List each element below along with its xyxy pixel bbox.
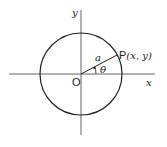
x-axis-label: x: [146, 77, 152, 88]
point-label: P(x, y): [119, 49, 152, 61]
point-name: P: [119, 49, 126, 61]
diagram-canvas: y x O a θ P(x, y): [0, 0, 167, 147]
radius-label: a: [95, 52, 101, 63]
angle-label: θ: [100, 64, 106, 75]
origin-label: O: [72, 76, 81, 88]
point-coordinates: (x, y): [126, 50, 152, 61]
y-axis-label: y: [71, 7, 78, 18]
